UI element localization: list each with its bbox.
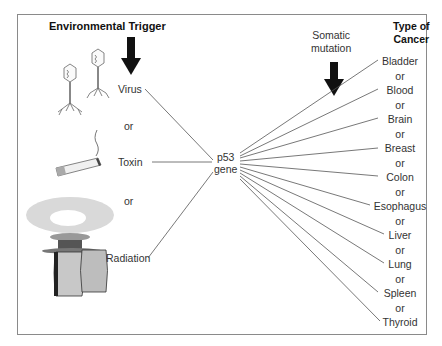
trigger-radiation: Radiation [106, 252, 150, 264]
trigger-virus: Virus [118, 83, 142, 95]
or-label: or [124, 120, 133, 132]
trigger-toxin: Toxin [118, 156, 143, 168]
left-header: Environmental Trigger [49, 20, 166, 32]
or-label: or [124, 195, 133, 207]
cancer-thyroid: Thyroid [370, 315, 430, 330]
bacteriophage-icon [58, 49, 109, 115]
cancer-breast: Breast [370, 141, 430, 156]
nuclear-cooling-tower-icon [26, 197, 114, 296]
somatic-mutation-label: Somatic mutation [311, 29, 351, 55]
p53-gene-label: p53 gene [214, 151, 237, 175]
cancer-esophagus: Esophagus [370, 199, 430, 214]
cancer-list: Bladder or Blood or Brain or Breast or C… [370, 54, 430, 330]
cigarette-icon [56, 130, 101, 176]
cancer-brain: Brain [370, 112, 430, 127]
cancer-blood: Blood [370, 83, 430, 98]
cancer-liver: Liver [370, 228, 430, 243]
cancer-spleen: Spleen [370, 286, 430, 301]
right-header: Type of Cancer [393, 20, 430, 46]
cancer-lung: Lung [370, 257, 430, 272]
environmental-arrow-icon [121, 37, 141, 75]
cancer-colon: Colon [370, 170, 430, 185]
cancer-bladder: Bladder [370, 54, 430, 69]
somatic-arrow-icon [324, 62, 344, 96]
connection-lines [145, 60, 384, 321]
